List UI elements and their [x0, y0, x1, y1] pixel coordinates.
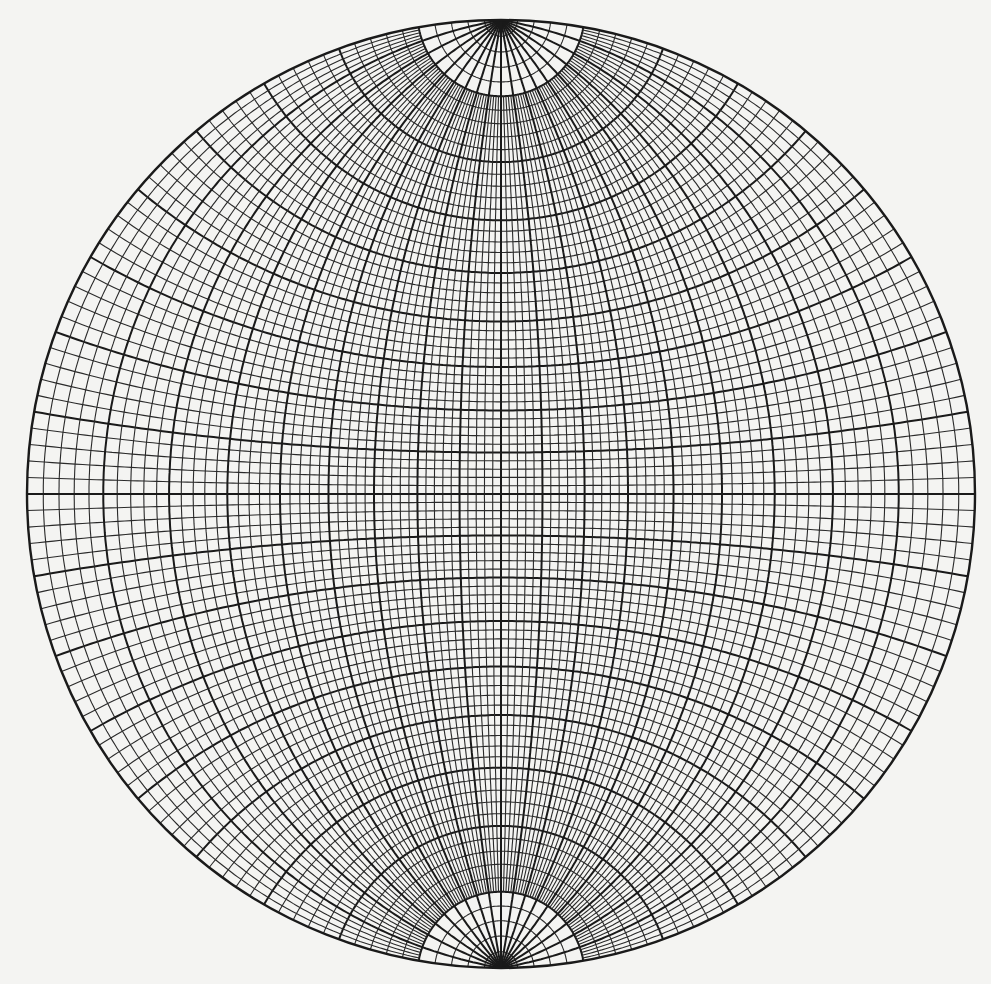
- wulff-net: [0, 0, 991, 984]
- great-circles-meridians: [27, 20, 975, 968]
- stereonet-figure: Wulff stereographic net: [0, 0, 991, 984]
